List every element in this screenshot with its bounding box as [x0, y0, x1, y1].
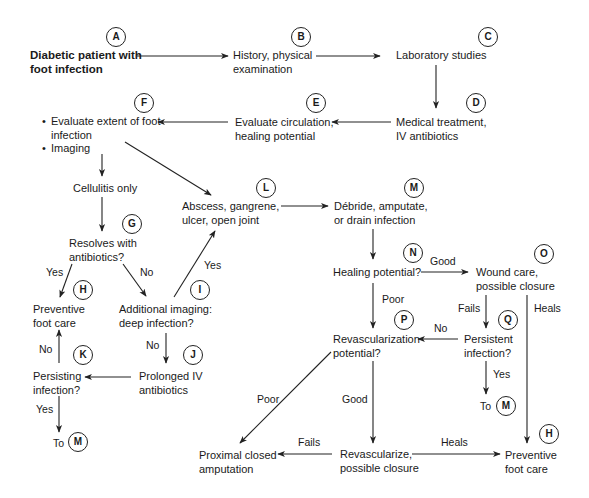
badge-q: Q — [498, 310, 518, 330]
bullet-evaluate-extent: Evaluate extent of foot infection — [42, 115, 160, 142]
node-preventive-foot-care-2: Preventive foot care — [505, 449, 557, 476]
badge-n: N — [403, 243, 423, 263]
node-diabetic-patient: Diabetic patient with foot infection — [30, 49, 142, 76]
edge-label-n-poor: Poor — [382, 293, 404, 306]
node-preventive-foot-care: Preventive foot care — [33, 303, 85, 330]
badge-h: H — [73, 280, 93, 300]
node-healing-potential: Healing potential? — [333, 266, 421, 280]
node-evaluate-extent: Evaluate extent of foot infection Imagin… — [42, 115, 160, 156]
bullet-imaging: Imaging — [42, 142, 160, 156]
badge-b: B — [291, 27, 311, 47]
node-prolonged-iv: Prolonged IV antibiotics — [139, 370, 203, 397]
edge-label-p-good: Good — [342, 393, 368, 406]
edge-label-k-no: No — [39, 343, 52, 356]
edge-label-i-no: No — [146, 339, 159, 352]
node-cellulitis-only: Cellulitis only — [73, 182, 137, 196]
edge-label-q-yes: Yes — [493, 368, 510, 381]
badge-j: J — [183, 345, 203, 365]
node-additional-imaging: Additional imaging: deep infection? — [119, 303, 212, 330]
badge-o: O — [534, 244, 554, 264]
edge-label-o-heals: Heals — [534, 302, 561, 315]
flowchart-canvas: A Diabetic patient with foot infection B… — [0, 0, 589, 498]
node-debride-amputate: Débride, amputate, or drain infection — [334, 200, 428, 227]
node-lab-studies: Laboratory studies — [396, 49, 487, 63]
badge-a: A — [106, 27, 126, 47]
bullet-text: Imaging — [51, 142, 90, 154]
badge-e: E — [306, 93, 326, 113]
badge-m-ref: M — [496, 396, 516, 416]
badge-m: M — [404, 178, 424, 198]
badge-d: D — [466, 93, 486, 113]
edge-label-g-yes: Yes — [46, 266, 63, 279]
to-label: To — [480, 400, 491, 413]
node-wound-care: Wound care, possible closure — [476, 266, 555, 293]
to-label: To — [53, 437, 64, 450]
node-medical-treatment: Medical treatment, IV antibiotics — [396, 116, 486, 143]
node-resolves-antibiotics: Resolves with antibiotics? — [69, 237, 137, 264]
edge-label-n-good: Good — [430, 255, 456, 268]
edge-label-revasc-fails: Fails — [298, 436, 320, 449]
edge-label-i-yes: Yes — [204, 259, 221, 272]
badge-i: I — [190, 280, 210, 300]
badge-h: H — [539, 424, 559, 444]
node-history-exam: History, physical examination — [233, 49, 312, 76]
edge-label-k-yes: Yes — [36, 403, 53, 416]
badge-f: F — [134, 93, 154, 113]
edge-label-q-no: No — [434, 322, 447, 335]
badge-p: P — [394, 310, 414, 330]
bullet-text: Evaluate extent of foot infection — [51, 115, 160, 141]
edge-label-p-poor: Poor — [257, 393, 279, 406]
badge-m-ref: M — [68, 432, 88, 452]
edge-label-revasc-heals: Heals — [441, 436, 468, 449]
node-persisting-infection: Persisting infection? — [33, 370, 81, 397]
node-revascularization-potential: Revascularization potential? — [333, 333, 420, 360]
node-abscess-gangrene: Abscess, gangrene, ulcer, open joint — [182, 200, 279, 227]
badge-l: L — [256, 178, 276, 198]
edge-label-g-no: No — [140, 266, 153, 279]
node-persistent-infection: Persistent infection? — [464, 333, 513, 360]
badge-g: G — [122, 214, 142, 234]
node-evaluate-circulation: Evaluate circulation, healing potential — [235, 116, 333, 143]
node-proximal-amputation: Proximal closed amputation — [199, 449, 277, 476]
badge-k: K — [73, 345, 93, 365]
edge-label-o-fails: Fails — [458, 302, 480, 315]
badge-c: C — [478, 27, 498, 47]
node-revascularize: Revascularize, possible closure — [340, 448, 419, 475]
